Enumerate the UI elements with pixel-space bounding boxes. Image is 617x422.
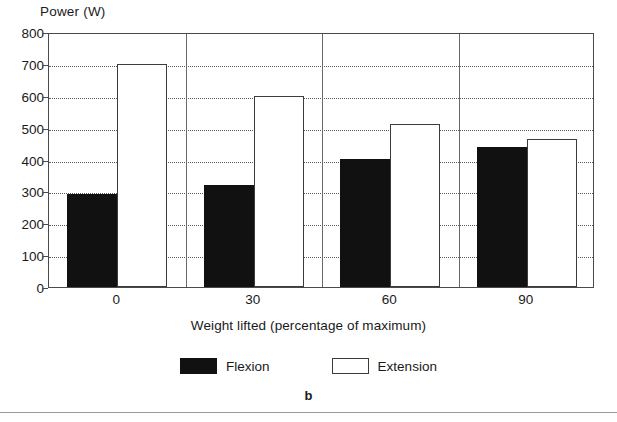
y-tick-mark — [42, 288, 48, 289]
x-tick-label: 30 — [245, 292, 260, 307]
y-tick-label: 100 — [4, 249, 44, 264]
legend-label: Extension — [378, 359, 437, 374]
plot-area — [48, 33, 594, 288]
x-tick-label: 0 — [112, 292, 120, 307]
bar-extension-30 — [254, 96, 304, 287]
y-tick-label: 0 — [4, 281, 44, 296]
legend-item-extension: Extension — [332, 358, 437, 374]
y-tick-label: 700 — [4, 57, 44, 72]
bar-extension-60 — [390, 124, 440, 287]
x-tick-label: 60 — [382, 292, 397, 307]
legend-swatch-flexion — [180, 358, 217, 374]
bar-flexion-0 — [67, 194, 117, 287]
y-tick-label: 800 — [4, 26, 44, 41]
legend-label: Flexion — [226, 359, 270, 374]
y-axis-tick-marks — [41, 33, 48, 288]
y-axis-tick-labels: 0100200300400500600700800 — [0, 33, 44, 288]
y-tick-label: 300 — [4, 185, 44, 200]
bar-chart-figure: Power (W) 0100200300400500600700800 0306… — [0, 0, 617, 422]
y-tick-label: 200 — [4, 217, 44, 232]
bar-extension-90 — [527, 139, 577, 287]
y-tick-label: 400 — [4, 153, 44, 168]
chart-legend: FlexionExtension — [0, 358, 617, 374]
legend-item-flexion: Flexion — [180, 358, 270, 374]
bar-extension-0 — [117, 64, 167, 287]
x-axis-tick-labels: 0306090 — [48, 292, 594, 312]
legend-swatch-extension — [332, 358, 369, 374]
bars-layer — [49, 34, 593, 287]
y-axis-title: Power (W) — [40, 4, 106, 19]
bottom-divider — [0, 412, 617, 413]
x-axis-title: Weight lifted (percentage of maximum) — [0, 318, 617, 333]
bar-flexion-60 — [340, 159, 390, 287]
x-tick-label: 90 — [518, 292, 533, 307]
bar-flexion-30 — [204, 185, 254, 287]
y-tick-label: 500 — [4, 121, 44, 136]
bar-flexion-90 — [477, 147, 527, 287]
figure-caption: b — [0, 388, 617, 403]
y-tick-label: 600 — [4, 89, 44, 104]
